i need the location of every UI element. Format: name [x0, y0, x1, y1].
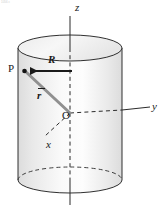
figure-canvas: 1056 c — [0, 0, 165, 210]
origin-label: O — [62, 110, 70, 121]
y-axis-label: y — [152, 101, 157, 112]
radius-vector-label: R — [48, 54, 55, 65]
cylinder-diagram-svg — [0, 0, 165, 210]
y-axis-outer — [122, 107, 150, 110]
x-axis-label: x — [46, 139, 51, 150]
point-p-label: P — [8, 63, 14, 74]
position-vector-label: r — [37, 88, 45, 101]
z-axis-label: z — [75, 2, 79, 13]
position-vector-letter: r — [37, 89, 41, 101]
point-p-marker — [22, 69, 27, 74]
